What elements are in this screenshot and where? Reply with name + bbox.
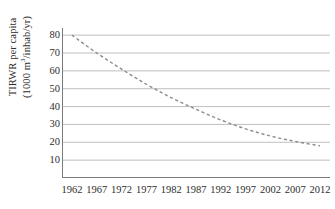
y-axis-units-suffix: /inhab/yr) bbox=[21, 16, 32, 58]
y-axis-title-line1: TIRWR per capita bbox=[7, 18, 19, 97]
y-tick-label: 20 bbox=[38, 137, 60, 148]
y-axis-tick-labels: 8070605040302010 bbox=[38, 28, 60, 178]
plot-svg bbox=[62, 28, 330, 178]
data-series-line bbox=[72, 35, 320, 146]
y-tick-label: 10 bbox=[38, 155, 60, 166]
axis-lines bbox=[62, 28, 330, 178]
x-axis-tick-labels: 1962196719721977198219871992199720022007… bbox=[62, 184, 330, 200]
plot-area bbox=[62, 28, 330, 178]
y-tick-label: 40 bbox=[38, 102, 60, 113]
chart-figure: TIRWR per capita (1000 m3/inhab/yr) 8070… bbox=[0, 0, 335, 209]
y-tick-label: 50 bbox=[38, 84, 60, 95]
y-axis-units-prefix: (1000 m bbox=[21, 62, 32, 98]
y-tick-label: 70 bbox=[38, 48, 60, 59]
y-axis-title: TIRWR per capita (1000 m3/inhab/yr) bbox=[3, 0, 37, 127]
y-axis-title-line2: (1000 m3/inhab/yr) bbox=[19, 16, 33, 98]
y-axis-units-exponent: 3 bbox=[19, 58, 27, 62]
y-tick-label: 80 bbox=[38, 30, 60, 41]
y-tick-label: 60 bbox=[38, 66, 60, 77]
x-tick-label: 2012 bbox=[300, 184, 335, 196]
y-tick-label: 30 bbox=[38, 119, 60, 130]
gridlines bbox=[62, 35, 330, 160]
